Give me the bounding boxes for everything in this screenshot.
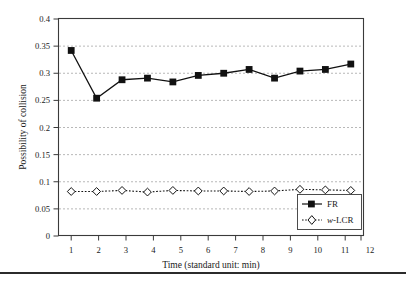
filled-square-marker: [144, 75, 151, 82]
chart-figure: 0 0.05 0.1 0.15 0.2 0.25 0.3 0.35 0.4: [0, 0, 406, 281]
x-tick-label: 9: [288, 245, 292, 255]
collision-possibility-line-chart: 0 0.05 0.1 0.15 0.2 0.25 0.3 0.35 0.4: [0, 0, 406, 281]
chart-legend[interactable]: FR w -LCR: [298, 195, 362, 230]
filled-square-marker: [169, 79, 176, 86]
x-tick-label: 1: [69, 245, 73, 255]
filled-square-marker: [195, 72, 202, 79]
y-axis-title: Possibility of collision: [18, 84, 28, 170]
y-tick-label: 0.25: [35, 95, 50, 105]
x-tick-label: 5: [179, 245, 183, 255]
y-tick-label: 0.05: [35, 204, 50, 214]
x-tick-label: 6: [206, 245, 211, 255]
x-tick-label: 11: [341, 245, 349, 255]
filled-square-marker: [220, 70, 227, 77]
y-tick-label: 0.15: [35, 150, 50, 160]
filled-square-marker: [347, 61, 354, 68]
filled-square-marker: [271, 75, 278, 82]
y-tick-label: 0.35: [35, 41, 50, 51]
filled-square-marker: [93, 95, 100, 102]
y-tick-label: 0.4: [39, 14, 50, 24]
x-tick-label: 12: [366, 245, 375, 255]
x-tick-label: 2: [96, 245, 100, 255]
x-tick-label: 3: [124, 245, 128, 255]
filled-square-marker: [246, 66, 253, 73]
filled-square-marker: [68, 47, 75, 54]
legend-label-fr: FR: [327, 199, 338, 209]
x-axis-title: Time (standard unit: min): [162, 260, 260, 271]
y-tick-label: 0.3: [39, 68, 50, 78]
x-tick-label: 7: [233, 245, 238, 255]
filled-square-icon: [308, 201, 315, 208]
filled-square-marker: [322, 66, 329, 73]
legend-label-wlcr-rest: -LCR: [333, 215, 354, 225]
x-tick-label: 10: [314, 245, 323, 255]
y-tick-label: 0: [46, 231, 50, 241]
x-tick-label: 4: [151, 245, 156, 255]
y-tick-label: 0.2: [39, 123, 50, 133]
x-tick-label: 8: [261, 245, 265, 255]
y-tick-label: 0.1: [39, 177, 50, 187]
filled-square-marker: [119, 76, 126, 83]
filled-square-marker: [297, 68, 304, 75]
